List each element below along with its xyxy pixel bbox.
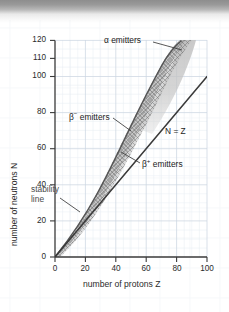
y-axis-ticks [50,40,55,257]
beta-minus-emitters-label: β− emitters [69,111,110,121]
y-tick-label-60: 60 [12,144,46,152]
y-tick-label-120: 120 [12,36,46,44]
y-axis-title: number of neutrons N [10,163,19,246]
x-tick-label-80: 80 [167,265,187,273]
x-tick-label-20: 20 [75,265,95,273]
x-tick-label-40: 40 [106,265,126,273]
stability-line-label: stability line [31,185,59,204]
x-axis-title: number of protons Z [83,280,160,289]
nuclide-stability-chart: 120 110 100 80 60 40 20 0 0 20 40 60 80 … [0,0,229,312]
x-tick-label-0: 0 [45,265,65,273]
beta-minus-rest: emitters [77,112,109,122]
x-tick-label-60: 60 [136,265,156,273]
stability-line-label-row2: line [31,195,59,205]
y-tick-label-110: 110 [12,54,46,62]
x-axis-ticks [55,257,207,262]
n-equals-z-label: N = Z [165,127,186,135]
y-tick-label-80: 80 [12,108,46,116]
x-tick-label-100: 100 [197,265,217,273]
y-tick-label-0: 0 [12,253,46,261]
beta-plus-rest: emitters [150,159,182,169]
y-tick-label-100: 100 [12,72,46,80]
alpha-emitters-label: α emitters [104,36,141,44]
beta-plus-emitters-label: β+ emitters [142,158,183,168]
